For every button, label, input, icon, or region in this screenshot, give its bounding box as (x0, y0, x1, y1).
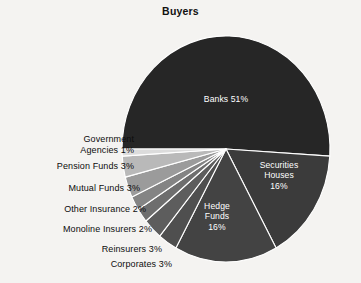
pie-slice-group (122, 36, 330, 262)
pie-slice-banks (122, 36, 330, 156)
outside-label-mutual-funds: Mutual Funds 3% (0, 183, 140, 194)
outside-label-reinsurers: Reinsurers 3% (0, 244, 162, 255)
outside-label-monoline-insurers: Monoline Insurers 2% (0, 224, 152, 235)
outside-label-other-insurance: Other Insurance 2% (0, 204, 146, 215)
outside-label-government-agencies: Government Agencies 1% (0, 134, 134, 156)
outside-label-corporates: Corporates 3% (0, 259, 172, 270)
outside-label-pension-funds: Pension Funds 3% (0, 161, 134, 172)
pie-chart-figure: Buyers Banks 51% Securities Houses 16% H… (0, 0, 361, 283)
